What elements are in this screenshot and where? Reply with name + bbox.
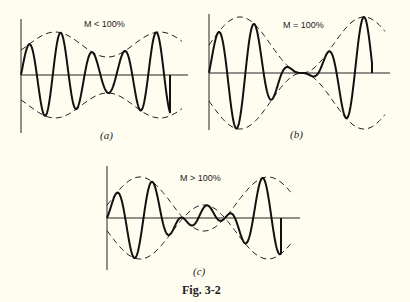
- panel-c-upper-envelope: [107, 177, 292, 231]
- figure-caption: Fig. 3-2: [182, 283, 221, 297]
- panel-a-label: (a): [100, 129, 113, 142]
- panel-b-title: M = 100%: [283, 20, 324, 30]
- panel-c-label: (c): [193, 265, 206, 278]
- panel-b-label: (b): [290, 128, 303, 141]
- panel-a: M < 100% (a): [21, 19, 188, 142]
- panel-c-lower-envelope: [107, 205, 292, 259]
- panel-b-lower-envelope: [209, 73, 385, 129]
- panel-a-title: M < 100%: [84, 19, 125, 29]
- figure-3-2: M < 100% (a) M = 100% (b) M > 100% (c) F…: [0, 0, 410, 302]
- panel-b: M = 100% (b): [209, 14, 390, 141]
- panel-c-title: M > 100%: [180, 173, 221, 183]
- panel-a-lower-envelope: [21, 93, 182, 118]
- panel-a-modulated-wave: [21, 32, 170, 115]
- panel-c: M > 100% (c): [107, 166, 300, 278]
